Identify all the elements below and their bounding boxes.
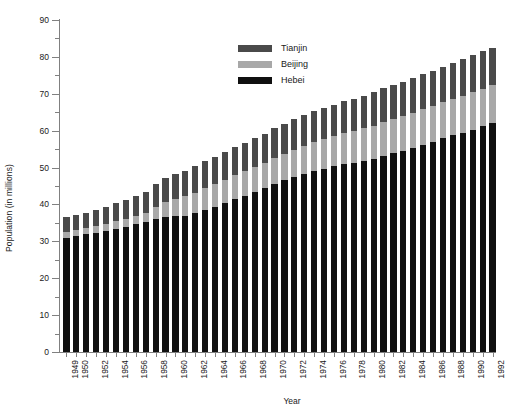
bar-segment-tianjin: [93, 210, 99, 226]
bar-1974: [311, 111, 317, 352]
x-tick-label: 1968: [258, 360, 268, 378]
bar-segment-tianjin: [470, 55, 476, 92]
bar-segment-beijing: [252, 167, 258, 192]
x-tick-label: 1970: [278, 360, 288, 378]
x-tick: [175, 352, 176, 357]
bar-1965: [222, 152, 228, 352]
x-tick: [423, 352, 424, 357]
x-tick: [304, 352, 305, 357]
legend-label: Beijing: [281, 60, 308, 69]
bar-segment-beijing: [480, 89, 486, 127]
x-tick-label: 1952: [100, 360, 110, 378]
bar-segment-tianjin: [252, 138, 258, 167]
bar-segment-hebei: [430, 142, 436, 352]
bar-1990: [470, 55, 476, 352]
bar-1968: [252, 138, 258, 352]
y-tick-minor: [55, 75, 59, 76]
bar-1976: [331, 105, 337, 353]
legend-item-hebei: Hebei: [238, 76, 308, 85]
bar-1991: [480, 51, 486, 352]
bar-segment-tianjin: [460, 59, 466, 96]
x-tick: [265, 352, 266, 357]
bar-segment-hebei: [192, 213, 198, 352]
bar-1989: [460, 59, 466, 352]
population-stacked-bar-chart: Population (in millions) 010203040506070…: [0, 0, 516, 415]
bar-segment-beijing: [143, 213, 149, 222]
x-tick-label: 1982: [397, 360, 407, 378]
bar-segment-hebei: [222, 203, 228, 352]
x-tick: [106, 352, 107, 357]
bar-segment-hebei: [291, 177, 297, 352]
bar-segment-beijing: [331, 136, 337, 166]
bar-1957: [143, 192, 149, 352]
y-tick-label: 50: [40, 163, 49, 173]
bar-1979: [361, 96, 367, 352]
y-tick-label: 90: [40, 15, 49, 25]
bar-segment-hebei: [212, 207, 218, 352]
x-tick: [453, 352, 454, 357]
y-tick-label: 20: [40, 273, 49, 283]
bar-segment-tianjin: [341, 101, 347, 133]
x-tick: [126, 352, 127, 357]
bar-segment-tianjin: [202, 161, 208, 188]
bar-segment-hebei: [123, 227, 129, 352]
bar-segment-tianjin: [222, 152, 228, 180]
legend-label: Hebei: [281, 76, 305, 85]
bar-1950: [73, 215, 79, 352]
bar-segment-beijing: [470, 92, 476, 129]
bar-1973: [301, 115, 307, 352]
y-tick-minor: [55, 112, 59, 113]
bar-1975: [321, 108, 327, 352]
bar-segment-hebei: [470, 130, 476, 352]
bar-1986: [430, 71, 436, 352]
bar-segment-tianjin: [242, 143, 248, 171]
bar-segment-hebei: [380, 156, 386, 352]
bar-1963: [202, 161, 208, 352]
chart-legend: TianjinBeijingHebei: [238, 44, 308, 85]
legend-item-tianjin: Tianjin: [238, 44, 308, 53]
bar-segment-tianjin: [143, 192, 149, 213]
bar-1981: [380, 88, 386, 352]
bar-segment-hebei: [73, 236, 79, 352]
bar-segment-beijing: [380, 122, 386, 156]
bar-1962: [192, 166, 198, 352]
y-tick-minor: [55, 149, 59, 150]
bar-segment-beijing: [172, 199, 178, 216]
x-tick: [314, 352, 315, 357]
bar-1970: [271, 128, 277, 352]
bar-segment-beijing: [410, 113, 416, 148]
bar-segment-tianjin: [153, 184, 159, 207]
bar-segment-hebei: [400, 151, 406, 352]
bar-segment-hebei: [162, 217, 168, 352]
bar-1955: [123, 200, 129, 352]
bar-segment-beijing: [133, 216, 139, 224]
bar-segment-tianjin: [162, 178, 168, 202]
bar-segment-hebei: [311, 171, 317, 352]
x-tick: [344, 352, 345, 357]
x-tick: [493, 352, 494, 357]
y-axis-ticks: 0102030405060708090: [0, 0, 59, 372]
bar-1969: [262, 134, 268, 352]
bar-segment-beijing: [153, 207, 159, 220]
bar-segment-beijing: [113, 221, 119, 228]
bar-segment-beijing: [450, 99, 456, 136]
y-tick-major: [52, 131, 59, 132]
bar-segment-hebei: [93, 233, 99, 352]
bar-segment-tianjin: [63, 217, 69, 232]
x-tick: [205, 352, 206, 357]
bar-segment-hebei: [301, 174, 307, 352]
bar-segment-hebei: [321, 169, 327, 352]
bar-segment-beijing: [440, 102, 446, 138]
bar-segment-beijing: [103, 224, 109, 231]
y-tick-major: [52, 278, 59, 279]
bar-segment-beijing: [281, 154, 287, 181]
y-tick-label: 0: [44, 347, 49, 357]
bar-1966: [232, 147, 238, 352]
bar-segment-tianjin: [192, 166, 198, 193]
x-tick-label: 1990: [476, 360, 486, 378]
bar-segment-hebei: [271, 184, 277, 352]
x-tick: [66, 352, 67, 357]
bar-segment-hebei: [113, 229, 119, 352]
bar-segment-hebei: [281, 180, 287, 352]
x-tick-label: 1974: [318, 360, 328, 378]
